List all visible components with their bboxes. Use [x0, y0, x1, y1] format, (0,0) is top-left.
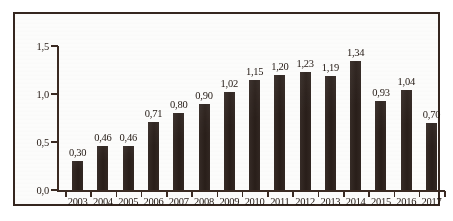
bar — [123, 146, 134, 190]
bar — [325, 76, 336, 190]
bar — [300, 72, 311, 190]
x-axis-tick-mark — [90, 191, 92, 197]
x-axis-tick-label: 2006 — [144, 196, 164, 207]
x-axis-tick-label: 2015 — [371, 196, 391, 207]
bar-value-label: 1,20 — [271, 61, 288, 72]
bar-value-label: 0,90 — [195, 90, 212, 101]
bar — [375, 101, 386, 190]
bar-value-label: 0,30 — [69, 147, 86, 158]
y-axis-tick-label: 1,0 — [36, 89, 49, 100]
x-axis-tick-label: 2010 — [245, 196, 265, 207]
bar-value-label: 0,46 — [120, 132, 137, 143]
bar — [97, 146, 108, 190]
x-axis-tick-mark — [292, 191, 294, 197]
bar-chart-figure: 0,00,51,01,50,3020030,4620040,4620050,71… — [0, 0, 453, 221]
y-axis-tick-mark — [51, 93, 58, 95]
bar-value-label: 1,34 — [347, 47, 364, 58]
bar-value-label: 0,46 — [94, 132, 111, 143]
bar-value-label: 1,15 — [246, 66, 263, 77]
x-axis-tick-mark — [343, 191, 345, 197]
bar — [401, 90, 412, 190]
bar-value-label: 0,71 — [145, 108, 162, 119]
bar — [72, 161, 83, 190]
x-axis-tick-mark — [191, 191, 193, 197]
x-axis-tick-label: 2017 — [422, 196, 442, 207]
bar — [274, 75, 285, 190]
bar — [224, 92, 235, 190]
x-axis-tick-mark — [217, 191, 219, 197]
chart-frame: 0,00,51,01,50,3020030,4620040,4620050,71… — [13, 12, 440, 206]
x-axis-tick-label: 2003 — [68, 196, 88, 207]
x-axis-tick-mark — [242, 191, 244, 197]
bar — [199, 104, 210, 190]
y-axis-tick-mark — [51, 141, 58, 143]
bar-value-label: 1,23 — [296, 58, 313, 69]
x-axis-tick-mark — [65, 191, 67, 197]
y-axis-tick-label: 0,0 — [36, 185, 49, 196]
x-axis-tick-label: 2014 — [346, 196, 366, 207]
y-axis-tick-label: 1,5 — [36, 41, 49, 52]
x-axis-tick-mark — [419, 191, 421, 197]
bar-value-label: 1,02 — [221, 78, 238, 89]
bar-value-label: 1,04 — [398, 76, 415, 87]
x-axis-tick-label: 2012 — [295, 196, 315, 207]
y-axis-tick-mark — [51, 45, 58, 47]
bar-value-label: 0,70 — [423, 109, 440, 120]
x-axis-tick-mark — [318, 191, 320, 197]
x-axis-tick-label: 2005 — [118, 196, 138, 207]
x-axis-tick-label: 2007 — [169, 196, 189, 207]
bar-value-label: 0,93 — [372, 87, 389, 98]
x-axis-tick-mark — [166, 191, 168, 197]
x-axis-tick-mark — [444, 191, 446, 197]
bar — [350, 61, 361, 190]
bar-value-label: 0,80 — [170, 99, 187, 110]
bar — [249, 80, 260, 190]
x-axis-tick-mark — [116, 191, 118, 197]
y-axis-tick-mark — [51, 189, 58, 191]
x-axis-tick-mark — [267, 191, 269, 197]
bar — [148, 122, 159, 190]
x-axis-tick-mark — [141, 191, 143, 197]
bar-value-label: 1,19 — [322, 62, 339, 73]
bar — [426, 123, 437, 190]
x-axis-tick-label: 2016 — [396, 196, 416, 207]
y-axis-tick-label: 0,5 — [36, 137, 49, 148]
bar — [173, 113, 184, 190]
x-axis-tick-mark — [394, 191, 396, 197]
x-axis-tick-label: 2009 — [219, 196, 239, 207]
x-axis-tick-label: 2004 — [93, 196, 113, 207]
x-axis-tick-label: 2011 — [270, 196, 289, 207]
x-axis-tick-mark — [368, 191, 370, 197]
x-axis-tick-label: 2008 — [194, 196, 214, 207]
x-axis-tick-label: 2013 — [321, 196, 341, 207]
